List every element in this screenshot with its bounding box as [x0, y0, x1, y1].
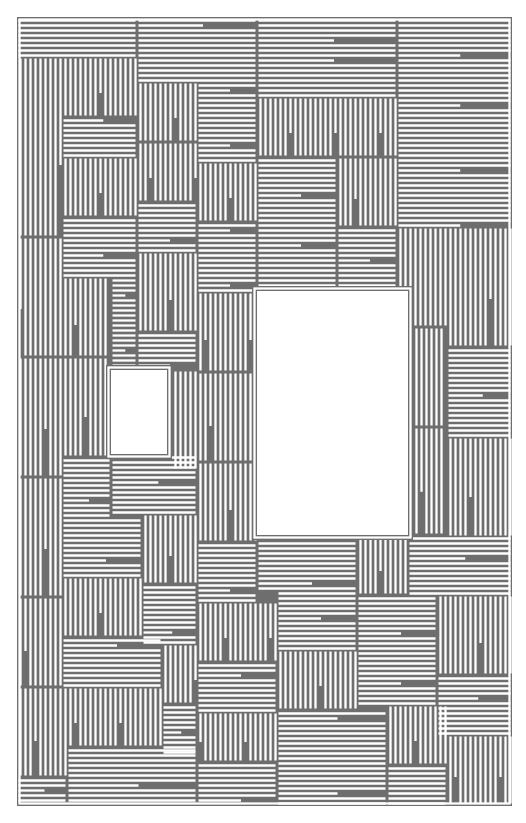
maze-region [412, 429, 442, 534]
maze-region [21, 59, 61, 236]
maze-region [66, 279, 106, 356]
maze-region [441, 597, 511, 674]
maze-artwork [0, 0, 526, 823]
maze-region [21, 359, 61, 476]
maze-region [139, 336, 196, 366]
maze-region [166, 646, 196, 703]
maze-region [451, 439, 511, 536]
maze-region [21, 479, 61, 596]
maze-region [279, 774, 386, 804]
maze-region [412, 329, 442, 426]
large-void [257, 291, 408, 535]
maze-region [451, 229, 511, 346]
maze-region [21, 239, 61, 356]
small-void [111, 370, 167, 454]
